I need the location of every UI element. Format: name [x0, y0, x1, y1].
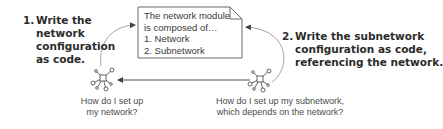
arrow-subnetwork-to-document [246, 27, 284, 82]
step-number: 1. [23, 14, 34, 27]
question-line: which depends on the network? [200, 107, 360, 118]
step-line: configuration [36, 40, 113, 53]
question-line: How do I set up my subnetwork, [200, 96, 360, 107]
question-line: How do I set up [62, 96, 162, 107]
step-2-label: 2. Write the subnetwork configuration as… [282, 30, 442, 69]
step-1-label: 1. Write the network configuration as co… [23, 14, 113, 66]
step-line: network [36, 27, 113, 40]
subnetwork-question: How do I set up my subnetwork, which dep… [200, 96, 360, 118]
question-line: my network? [62, 107, 162, 118]
step-line: as code. [36, 53, 113, 66]
step-line: Write the subnetwork [295, 30, 442, 43]
network-hub-icon [91, 68, 114, 91]
document-line: 2. Subnetwork [144, 45, 230, 57]
document-line: 1. Network [144, 33, 230, 45]
document-line: The network module [144, 10, 230, 22]
network-hub-icon [248, 69, 271, 92]
step-number: 2. [282, 30, 293, 43]
step-line: referencing the network. [295, 56, 442, 69]
document-text: The network module is composed of… 1. Ne… [144, 10, 230, 56]
document-line: is composed of… [144, 22, 230, 34]
step-line: configuration as code, [295, 43, 442, 56]
network-question: How do I set up my network? [62, 96, 162, 118]
step-line: Write the [36, 14, 113, 27]
